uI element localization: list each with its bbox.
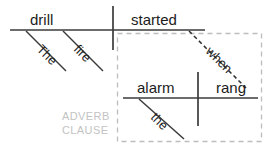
sentence-diagram: drill started The fire when alarm rang t… (0, 0, 267, 149)
adverb-clause-label-line1: ADVERB (62, 110, 110, 122)
adverb-clause-label-line2: CLAUSE (62, 124, 108, 136)
subordinate-subject-word: alarm (137, 79, 175, 96)
main-subject-word: drill (30, 11, 53, 28)
sentence-diagram-canvas: drill started The fire when alarm rang t… (0, 0, 267, 149)
subordinator-word: when (202, 43, 235, 76)
main-subject-modifier-word-1: The (34, 42, 60, 68)
subordinate-verb-word: rang (216, 79, 246, 96)
main-verb-word: started (131, 11, 177, 28)
subordinate-subject-modifier-word: the (148, 110, 171, 133)
main-subject-modifier-word-2: fire (71, 42, 94, 65)
